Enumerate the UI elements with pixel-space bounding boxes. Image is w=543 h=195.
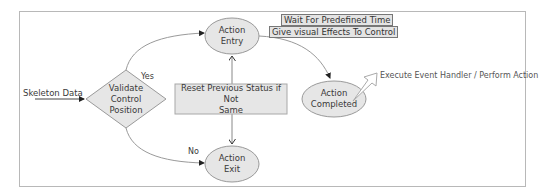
- reset-box-text: Reset Previous Status if Not Same: [175, 86, 287, 112]
- decision-text: Validate Control Position: [96, 82, 156, 116]
- reset-box-line-1: Reset Previous Status if Not: [175, 83, 287, 105]
- skeleton-data-label: Skeleton Data: [23, 88, 83, 99]
- decision-line-3: Position: [109, 105, 142, 116]
- entry-to-completed-connector: [259, 36, 330, 78]
- decision-line-1: Validate: [109, 83, 143, 94]
- callout-text: Execute Event Handler / Perform Action: [380, 70, 538, 81]
- wait-note: Wait For Predefined Time: [281, 14, 393, 26]
- action-entry-line-1: Action: [219, 25, 246, 36]
- no-label: No: [188, 146, 199, 157]
- yes-label: Yes: [141, 71, 154, 82]
- action-completed-text: Action Completed: [302, 87, 366, 111]
- action-completed-line-2: Completed: [311, 99, 357, 110]
- reset-box-line-2: Same: [219, 105, 243, 116]
- action-exit-text: Action Exit: [205, 152, 259, 176]
- action-exit-line-2: Exit: [224, 164, 240, 175]
- yes-connector: [126, 33, 204, 70]
- action-exit-line-1: Action: [219, 153, 246, 164]
- effects-note: Give visual Effects To Control: [269, 26, 398, 38]
- action-entry-text: Action Entry: [205, 24, 259, 48]
- action-entry-line-2: Entry: [221, 36, 244, 47]
- action-completed-line-1: Action: [321, 88, 348, 99]
- decision-line-2: Control: [111, 94, 142, 105]
